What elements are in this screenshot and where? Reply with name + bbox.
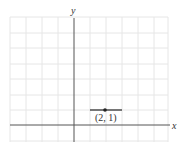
x-axis-label: x <box>171 120 177 131</box>
coordinate-plane: x y (2, 1) <box>0 0 180 153</box>
point-label: (2, 1) <box>95 112 117 124</box>
y-axis-label: y <box>70 5 76 16</box>
grid <box>10 17 168 142</box>
